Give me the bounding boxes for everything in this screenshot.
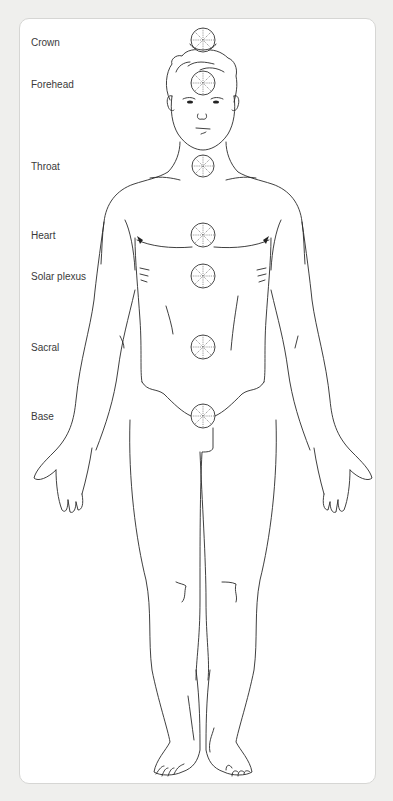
legs-outline <box>130 420 277 776</box>
chakra-throat-icon <box>192 155 214 177</box>
chakra-forehead-icon <box>191 71 215 95</box>
chakra-sacral-icon <box>191 335 215 359</box>
chakra-solar-plexus-icon <box>191 264 215 288</box>
left-arm-outline <box>34 220 135 512</box>
chakra-heart-icon <box>191 223 215 247</box>
head-outline <box>167 96 239 150</box>
chakra-base-icon <box>191 404 215 428</box>
chakra-crown-icon <box>190 28 216 52</box>
body-outline-figure <box>0 0 393 801</box>
right-arm-outline <box>271 220 372 512</box>
